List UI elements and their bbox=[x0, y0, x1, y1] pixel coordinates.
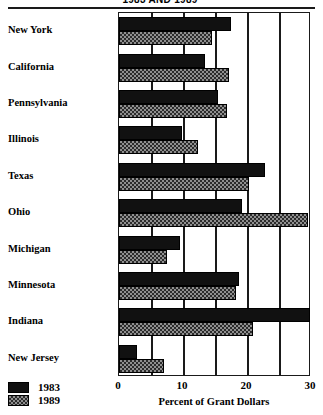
category-label-minnesota: Minnesota bbox=[8, 279, 114, 290]
category-label-new-york: New York bbox=[8, 24, 114, 35]
x-axis-title: Percent of Grant Dollars bbox=[118, 396, 310, 407]
bar-1989-minnesota bbox=[119, 286, 236, 300]
category-label-ohio: Ohio bbox=[8, 206, 114, 217]
category-label-texas: Texas bbox=[8, 170, 114, 181]
bar-1989-california bbox=[119, 68, 229, 82]
legend-entry-1983: 1983 bbox=[8, 381, 108, 394]
bar-1983-pennsylvania bbox=[119, 90, 218, 104]
category-label-new-jersey: New Jersey bbox=[8, 352, 114, 363]
bar-1983-new-jersey bbox=[119, 345, 137, 359]
category-label-michigan: Michigan bbox=[8, 243, 114, 254]
bar-1989-michigan bbox=[119, 250, 167, 264]
category-label-indiana: Indiana bbox=[8, 315, 114, 326]
plot-area bbox=[118, 12, 310, 376]
x-tick-20: 20 bbox=[231, 379, 261, 391]
legend-label-1983: 1983 bbox=[38, 381, 60, 394]
x-tick-30: 30 bbox=[295, 379, 323, 391]
x-tick-10: 10 bbox=[167, 379, 197, 391]
bar-1983-ohio bbox=[119, 199, 242, 213]
category-label-california: California bbox=[8, 61, 114, 72]
bar-1989-indiana bbox=[119, 322, 253, 336]
bar-1983-indiana bbox=[119, 308, 310, 322]
category-label-pennsylvania: Pennsylvania bbox=[8, 97, 114, 108]
bar-1983-minnesota bbox=[119, 272, 239, 286]
bar-1983-michigan bbox=[119, 236, 180, 250]
bar-1983-texas bbox=[119, 163, 265, 177]
legend-swatch-1989 bbox=[8, 395, 29, 406]
bar-1983-california bbox=[119, 54, 205, 68]
bar-1989-ohio bbox=[119, 213, 308, 227]
category-label-illinois: Illinois bbox=[8, 133, 114, 144]
bar-1983-illinois bbox=[119, 126, 182, 140]
bar-1989-pennsylvania bbox=[119, 104, 227, 118]
legend-label-1989: 1989 bbox=[38, 394, 60, 407]
chart-legend: 19831989 bbox=[8, 381, 108, 407]
legend-swatch-1983 bbox=[8, 382, 29, 393]
bar-1983-new-york bbox=[119, 17, 231, 31]
bar-1989-illinois bbox=[119, 140, 198, 154]
legend-entry-1989: 1989 bbox=[8, 394, 108, 407]
bar-1989-texas bbox=[119, 177, 249, 191]
bar-1989-new-york bbox=[119, 31, 212, 45]
title-rule bbox=[8, 7, 315, 9]
chart-title: 1983 AND 1989 bbox=[60, 0, 260, 3]
bar-chart: 1983 AND 1989 New YorkCaliforniaPennsylv… bbox=[0, 0, 323, 415]
bar-1989-new-jersey bbox=[119, 359, 164, 373]
